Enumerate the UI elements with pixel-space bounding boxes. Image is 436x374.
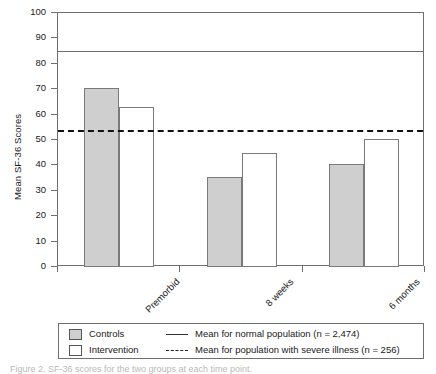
y-axis-tick-label: 20: [35, 210, 46, 220]
x-axis-label-premorbid: Premorbid: [143, 276, 182, 315]
y-axis-tick-label: 60: [35, 109, 46, 119]
bar-controls-premorbid: [84, 88, 119, 267]
y-axis-tick-label: 10: [35, 236, 46, 246]
plot-area: [57, 12, 424, 266]
chart-legend: ControlsMean for normal population (n = …: [58, 323, 424, 359]
legend-swatch-controls: [69, 329, 82, 340]
y-axis: 1009080706050403020100: [0, 0, 57, 280]
bar-intervention-8-weeks: [242, 153, 277, 267]
bar-controls-8-weeks: [207, 177, 242, 267]
y-axis-tick-label: 40: [35, 160, 46, 170]
legend-line-label: Mean for normal population (n = 2,474): [195, 328, 360, 339]
x-axis-label-8-weeks: 8 weeks: [263, 276, 295, 308]
x-axis-tick-mark: [302, 266, 303, 272]
chart-figure: Mean SF-36 Scores 1009080706050403020100…: [0, 0, 436, 374]
legend-key-label: Intervention: [89, 344, 139, 355]
legend-line-label: Mean for population with severe illness …: [195, 344, 400, 355]
legend-key-row: InterventionMean for population with sev…: [59, 343, 423, 359]
y-axis-tick-label: 70: [35, 83, 46, 93]
y-axis-tick-label: 50: [35, 134, 46, 144]
bar-controls-6-months: [329, 164, 364, 267]
y-axis-tick-label: 100: [30, 7, 46, 17]
x-axis-tick-mark: [424, 266, 425, 272]
x-axis-tick-mark: [179, 266, 180, 272]
y-axis-tick-label: 0: [41, 261, 46, 271]
y-axis-tick-label: 80: [35, 58, 46, 68]
bar-intervention-6-months: [364, 139, 399, 267]
legend-key-row: ControlsMean for normal population (n = …: [59, 327, 423, 343]
legend-line-sample-solid: [166, 334, 188, 335]
figure-caption: Figure 2. SF-36 scores for the two group…: [10, 364, 430, 374]
x-axis-label-6-months: 6 months: [386, 276, 421, 311]
y-axis-tick-label: 90: [35, 33, 46, 43]
legend-line-sample-dash: [166, 350, 188, 351]
y-axis-tick-label: 30: [35, 185, 46, 195]
legend-key-label: Controls: [89, 328, 124, 339]
reference-line-severe: [58, 130, 423, 132]
reference-line-normal: [58, 51, 423, 52]
legend-swatch-intervention: [69, 345, 82, 356]
x-axis-tick-mark: [57, 266, 58, 272]
